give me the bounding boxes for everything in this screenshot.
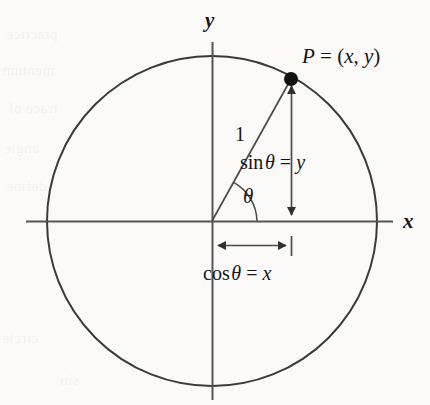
point-p-equals: = ( — [315, 44, 344, 68]
cosine-equals: = — [241, 262, 262, 284]
sine-value: y — [296, 151, 305, 173]
sine-equals: = — [275, 151, 296, 173]
cosine-arg: θ — [231, 262, 241, 284]
sine-func: sin — [240, 151, 263, 173]
point-p-label: P = (x, y) — [302, 46, 380, 67]
sine-arg: θ — [265, 151, 275, 173]
cosine-expression-label: cos θ = x — [203, 263, 271, 283]
point-p-y: y — [364, 44, 373, 68]
point-p-comma: , — [354, 44, 365, 68]
unit-circle-figure: practice mentum trace of angle define ci… — [0, 0, 430, 405]
y-axis-label: y — [205, 10, 214, 31]
radius-length-label: 1 — [235, 124, 245, 144]
point-p-x: x — [344, 44, 353, 68]
x-axis-label: x — [403, 211, 414, 232]
point-p-name: P — [302, 44, 315, 68]
sine-expression-label: sin θ = y — [240, 152, 305, 172]
point-p-marker — [284, 72, 298, 86]
cosine-value: x — [262, 262, 271, 284]
angle-theta-label: θ — [243, 186, 253, 207]
point-p-close: ) — [373, 44, 380, 68]
cosine-func: cos — [203, 262, 230, 284]
